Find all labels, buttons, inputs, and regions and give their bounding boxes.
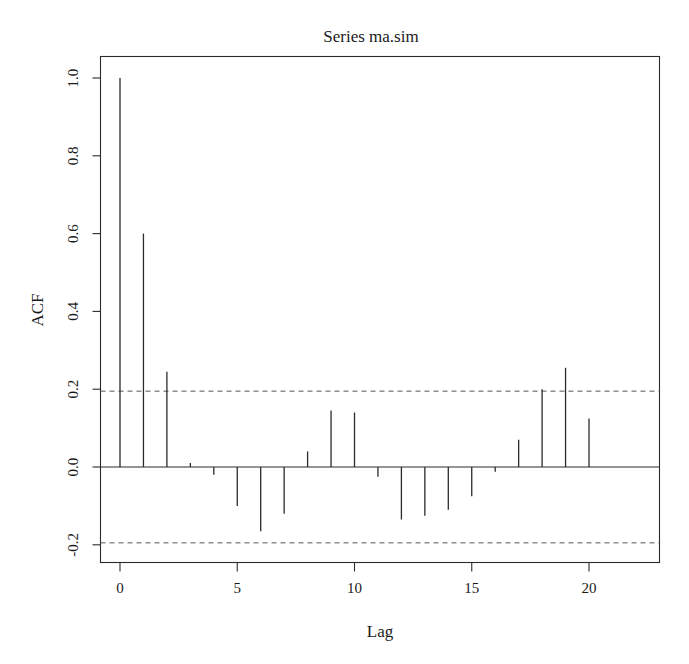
- y-tick-label: 0.0: [65, 458, 81, 477]
- x-tick-label: 15: [464, 580, 479, 596]
- y-tick-label: 0.4: [65, 302, 81, 321]
- acf-plot-figure: Series ma.sim -0.20.00.20.40.60.81.0 051…: [0, 0, 689, 664]
- acf-plot-canvas: Series ma.sim -0.20.00.20.40.60.81.0 051…: [0, 0, 689, 664]
- chart-title: Series ma.sim: [323, 27, 418, 46]
- y-tick-label: -0.2: [65, 533, 81, 557]
- y-tick-label: 0.2: [65, 380, 81, 399]
- figure-background: [0, 0, 689, 664]
- y-tick-label: 0.8: [65, 146, 81, 165]
- x-tick-label: 5: [234, 580, 242, 596]
- y-tick-label: 1.0: [65, 69, 81, 88]
- x-tick-label: 20: [582, 580, 597, 596]
- x-tick-label: 0: [116, 580, 124, 596]
- y-tick-label: 0.6: [65, 224, 81, 243]
- x-tick-label: 10: [347, 580, 362, 596]
- y-axis-title: ACF: [28, 293, 47, 326]
- x-axis-title: Lag: [367, 622, 394, 641]
